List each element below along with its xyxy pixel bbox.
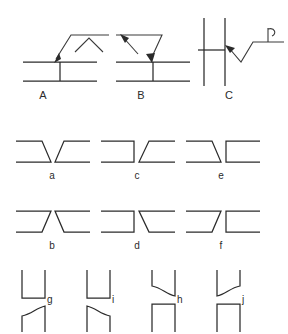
panel-g-drawing (18, 268, 66, 334)
panel-label-C: C (221, 90, 237, 101)
left-member-outline (16, 211, 51, 232)
panel-C-drawing (196, 10, 288, 90)
lower-member-outline (217, 304, 240, 332)
panel-label-g: g (47, 295, 53, 305)
panel-label-j: j (242, 295, 244, 305)
panel-i-drawing (83, 268, 131, 334)
zigzag-leader-line (229, 42, 284, 62)
panel-e-drawing (184, 138, 262, 166)
panel-c (99, 138, 177, 166)
panel-b-drawing (14, 208, 92, 236)
right-member-outline (139, 141, 175, 162)
panel-h (148, 268, 196, 334)
panel-B-drawing (110, 12, 210, 84)
panel-j (213, 268, 261, 334)
panel-label-a: a (44, 171, 60, 181)
left-member-outline (101, 141, 134, 162)
panel-A-drawing (14, 12, 114, 84)
leader-line (56, 35, 109, 59)
lower-member-j-curve (87, 306, 110, 332)
right-member-outline (139, 211, 175, 232)
panel-B (110, 12, 210, 84)
right-member-outline (55, 211, 90, 232)
panel-label-f: f (213, 241, 229, 251)
upper-member-outline (87, 270, 110, 298)
panel-b (14, 208, 92, 236)
figure-root: A B (0, 0, 288, 334)
right-member-outline (226, 211, 260, 232)
lower-member-j-curve (22, 306, 45, 332)
panel-label-b: b (44, 241, 60, 251)
panel-label-d: d (129, 241, 145, 251)
chevron-mark (75, 38, 103, 52)
panel-e (184, 138, 262, 166)
panel-label-A: A (35, 90, 51, 101)
panel-g (18, 268, 66, 334)
panel-f-drawing (184, 208, 262, 236)
panel-i (83, 268, 131, 334)
panel-a (14, 138, 92, 166)
lower-member-outline (152, 304, 175, 332)
left-member-outline (186, 141, 221, 162)
panel-j-drawing (213, 268, 261, 334)
arrowhead-icon (225, 45, 235, 53)
panel-label-h: h (177, 295, 183, 305)
panel-C (196, 10, 288, 90)
panel-label-i: i (112, 295, 114, 305)
left-member-outline (16, 141, 51, 162)
tail-flag-curve (268, 29, 275, 36)
right-member-outline (226, 141, 260, 162)
panel-d (99, 208, 177, 236)
panel-d-drawing (99, 208, 177, 236)
upper-member-outline (22, 270, 45, 298)
left-member-outline (101, 211, 134, 232)
panel-h-drawing (148, 268, 196, 334)
panel-f (184, 208, 262, 236)
panel-c-drawing (99, 138, 177, 166)
panel-A (14, 12, 114, 84)
panel-label-c: c (129, 171, 145, 181)
panel-label-B: B (133, 90, 149, 101)
panel-a-drawing (14, 138, 92, 166)
left-member-outline (186, 211, 221, 232)
panel-label-e: e (213, 171, 229, 181)
upper-member-j-curve (217, 270, 240, 296)
right-member-outline (55, 141, 90, 162)
upper-member-j-curve (152, 270, 175, 296)
